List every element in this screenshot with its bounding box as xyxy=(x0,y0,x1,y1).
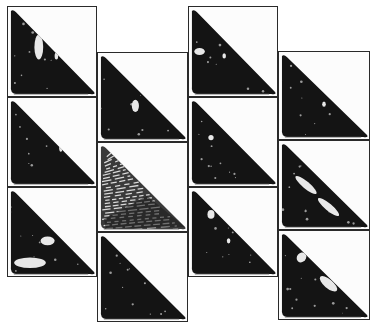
triangle-specimen-icon xyxy=(189,188,277,276)
specimen-cell-c3r3 xyxy=(188,187,278,277)
triangle-specimen-icon xyxy=(8,7,96,96)
specimen-cell-c3r1 xyxy=(188,6,278,97)
specimen-cell-c1r1 xyxy=(7,6,97,97)
triangle-specimen-icon xyxy=(279,52,369,139)
triangle-specimen-icon xyxy=(98,143,187,231)
triangle-specimen-icon xyxy=(189,7,277,96)
specimen-cell-c2r1 xyxy=(97,52,188,142)
specimen-cell-c3r2 xyxy=(188,97,278,187)
specimen-cell-c4r1 xyxy=(278,51,370,140)
triangle-specimen-icon xyxy=(279,141,369,229)
specimen-cell-c1r3 xyxy=(7,187,97,277)
specimen-cell-c2r3 xyxy=(97,232,188,322)
specimen-cell-c4r3 xyxy=(278,230,370,320)
triangle-specimen-icon xyxy=(8,188,96,276)
triangle-specimen-icon xyxy=(279,231,369,319)
triangle-specimen-icon xyxy=(189,98,277,186)
specimen-cell-c4r2 xyxy=(278,140,370,230)
specimen-cell-c1r2 xyxy=(7,97,97,187)
triangle-specimen-icon xyxy=(8,98,96,186)
triangle-specimen-icon xyxy=(98,233,187,321)
triangle-specimen-icon xyxy=(98,53,187,141)
specimen-cell-c2r2 xyxy=(97,142,188,232)
